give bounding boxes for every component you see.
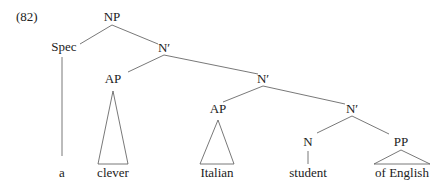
edge-nbar3-n — [317, 116, 352, 133]
node-nbar-1: N′ — [158, 41, 170, 55]
leaf-of-english: of English — [375, 166, 429, 180]
edge-nbar1-ap1 — [128, 55, 164, 72]
example-number: (82) — [16, 10, 38, 24]
tree-edges — [0, 0, 446, 186]
edge-nbar2-ap2 — [223, 86, 263, 102]
leaf-clever: clever — [97, 166, 129, 180]
node-spec: Spec — [51, 40, 76, 54]
triangle-pp — [374, 150, 430, 164]
triangle-ap1 — [98, 91, 128, 164]
edge-np-spec — [80, 25, 112, 44]
leaf-a: a — [59, 166, 65, 180]
edge-np-nbar1 — [112, 25, 158, 44]
node-pp: PP — [394, 135, 408, 149]
node-n: N — [303, 135, 312, 149]
node-np: NP — [104, 10, 121, 24]
leaf-italian: Italian — [200, 166, 233, 180]
node-nbar-2: N′ — [257, 72, 269, 86]
leaf-student: student — [289, 166, 327, 180]
edge-nbar2-nbar3 — [263, 86, 345, 104]
node-nbar-3: N′ — [346, 102, 358, 116]
edge-nbar1-nbar2 — [164, 55, 258, 74]
edge-nbar3-pp — [352, 116, 389, 134]
node-ap-1: AP — [105, 72, 122, 86]
triangle-ap2 — [200, 120, 234, 164]
node-ap-2: AP — [210, 102, 227, 116]
